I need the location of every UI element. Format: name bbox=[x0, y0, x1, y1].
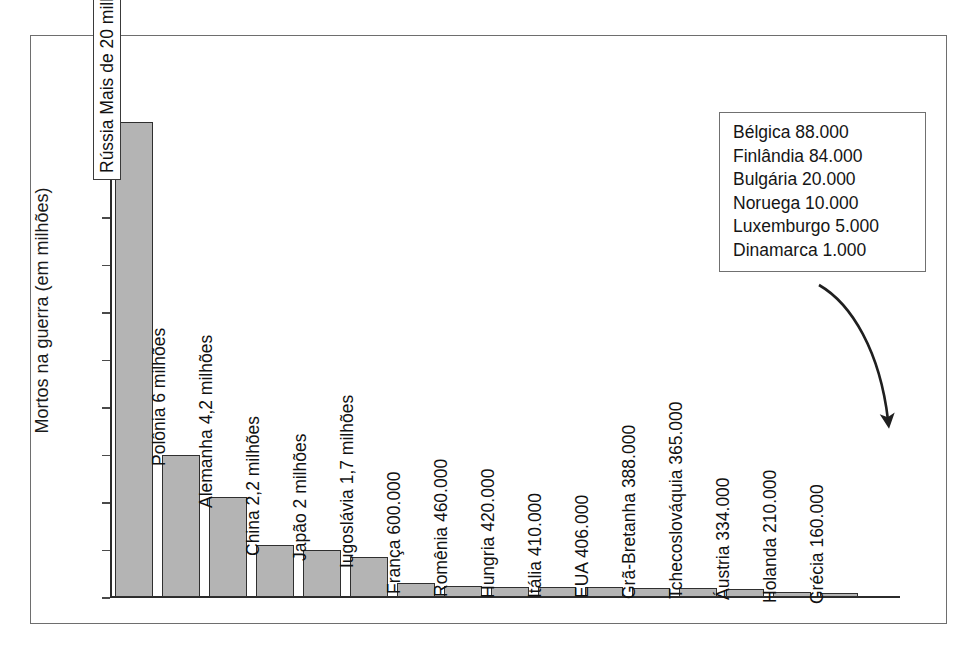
bar-label: Áustria 334.000 bbox=[714, 477, 732, 600]
y-tick-mark bbox=[102, 597, 110, 599]
bar-label: Grã-Bretanha 388.000 bbox=[620, 425, 638, 599]
bar-label: Tchecoslováquia 365.000 bbox=[667, 402, 685, 600]
war-deaths-bar-chart-figure: Mortos na guerra (em milhões) 2018161412… bbox=[0, 0, 977, 653]
note-box-line: Luxemburgo 5.000 bbox=[733, 215, 915, 239]
y-tick-mark bbox=[102, 550, 110, 552]
y-tick-mark bbox=[102, 265, 110, 267]
bar bbox=[209, 497, 247, 597]
bar-label: Itália 410.000 bbox=[526, 493, 544, 598]
y-tick-mark bbox=[102, 360, 110, 362]
y-tick-mark bbox=[102, 502, 110, 504]
bar-label: Iugoslávia 1,7 milhões bbox=[338, 394, 356, 567]
bar-label: Holanda 210.000 bbox=[761, 470, 779, 603]
bar-label: Grécia 160.000 bbox=[808, 485, 826, 605]
bar bbox=[115, 122, 153, 597]
y-tick-mark bbox=[102, 217, 110, 219]
bar bbox=[162, 455, 200, 598]
bar-label: Japão 2 milhões bbox=[291, 433, 309, 560]
note-box-line: Finlândia 84.000 bbox=[733, 145, 915, 169]
note-box: Bélgica 88.000Finlândia 84.000Bulgária 2… bbox=[719, 112, 926, 272]
y-axis-line bbox=[110, 120, 112, 598]
bar-label: França 600.000 bbox=[385, 471, 403, 594]
bar-label: Hungria 420.000 bbox=[479, 469, 497, 598]
bar-label: Romênia 460.000 bbox=[432, 459, 450, 597]
bar-label: EUA 406.000 bbox=[573, 495, 591, 598]
bar-label: Polônia 6 milhões bbox=[150, 327, 168, 465]
note-box-line: Bélgica 88.000 bbox=[733, 121, 915, 145]
y-axis-title: Mortos na guerra (em milhões) bbox=[32, 151, 53, 471]
bar-label: Alemanha 4,2 milhões bbox=[197, 335, 215, 508]
y-tick-mark bbox=[102, 407, 110, 409]
note-box-line: Bulgária 20.000 bbox=[733, 168, 915, 192]
note-box-line: Noruega 10.000 bbox=[733, 192, 915, 216]
y-tick-mark bbox=[102, 312, 110, 314]
bar-label: Rússia Mais de 20 milhões bbox=[93, 0, 121, 180]
bar-label: China 2,2 milhões bbox=[244, 416, 262, 556]
note-box-line: Dinamarca 1.000 bbox=[733, 239, 915, 263]
y-tick-mark bbox=[102, 455, 110, 457]
